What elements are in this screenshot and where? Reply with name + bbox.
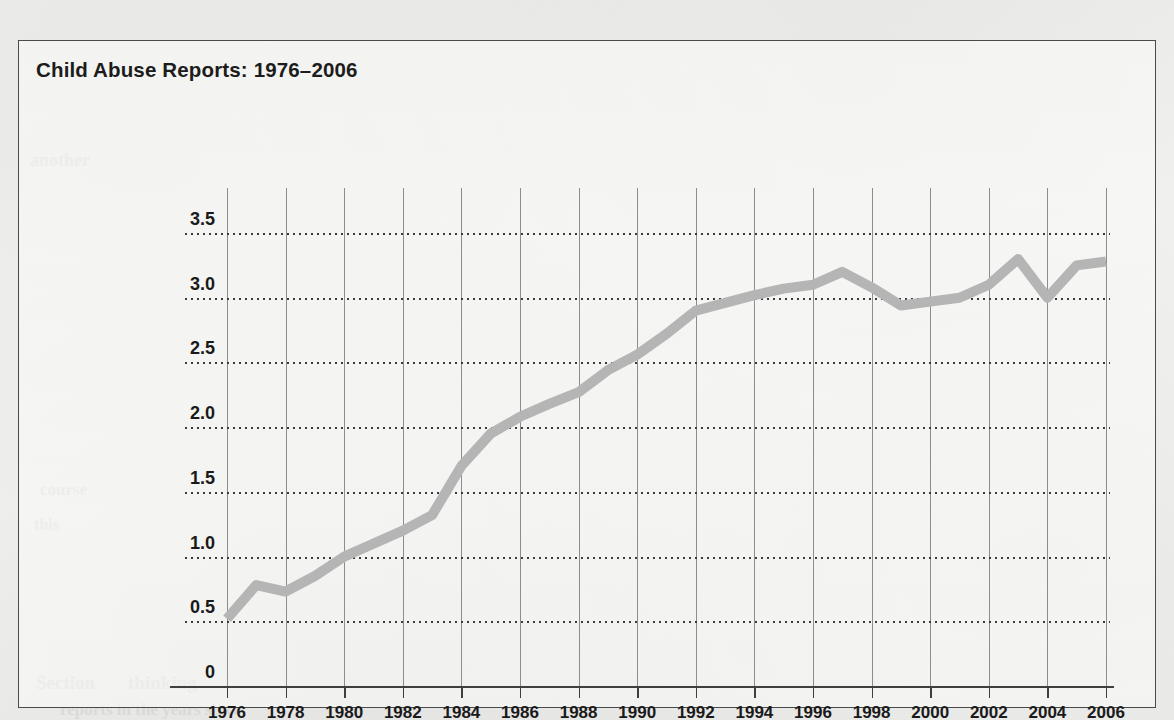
- x-axis-tick: [227, 686, 228, 698]
- y-axis-tick-label: 1.5: [169, 468, 215, 489]
- chart-title: Child Abuse Reports: 1976–2006: [36, 58, 358, 82]
- x-axis-tick: [344, 686, 345, 698]
- x-axis-tick: [1106, 686, 1107, 698]
- x-axis-tick-label: 2002: [959, 703, 1019, 720]
- y-axis-tick-label: 1.0: [169, 533, 215, 554]
- x-axis-tick: [696, 686, 697, 698]
- x-axis-tick: [579, 686, 580, 698]
- x-axis-tick-label: 1982: [373, 703, 433, 720]
- x-axis-tick: [286, 686, 287, 698]
- x-axis-tick-label: 1988: [549, 703, 609, 720]
- x-axis-tick-label: 1980: [314, 703, 374, 720]
- x-axis-tick: [930, 686, 931, 698]
- x-axis-tick: [1047, 686, 1048, 698]
- x-axis-line: [170, 686, 1114, 688]
- x-axis-tick-label: 1992: [666, 703, 726, 720]
- plot-area: [227, 233, 1106, 686]
- x-axis-tick-label: 2000: [900, 703, 960, 720]
- x-axis-tick: [754, 686, 755, 698]
- y-axis-tick-label: 0: [169, 662, 215, 683]
- x-axis-tick-label: 1976: [197, 703, 257, 720]
- y-axis-tick-label: 3.0: [169, 274, 215, 295]
- y-axis-tick-label: 2.0: [169, 403, 215, 424]
- y-axis-tick-label: 2.5: [169, 338, 215, 359]
- x-axis-tick-label: 1978: [256, 703, 316, 720]
- x-axis-tick-label: 1990: [607, 703, 667, 720]
- x-axis-tick: [461, 686, 462, 698]
- x-axis-tick-label: 2006: [1076, 703, 1136, 720]
- x-axis-tick-label: 2004: [1017, 703, 1077, 720]
- data-series-line: [227, 233, 1106, 686]
- x-axis-tick-label: 1996: [783, 703, 843, 720]
- series-polyline: [227, 259, 1106, 619]
- x-axis-tick: [520, 686, 521, 698]
- x-axis-tick: [813, 686, 814, 698]
- x-axis-tick: [989, 686, 990, 698]
- y-axis-tick-label: 3.5: [169, 209, 215, 230]
- x-axis-tick: [637, 686, 638, 698]
- y-axis-tick-label: 0.5: [169, 597, 215, 618]
- x-axis-tick-label: 1998: [842, 703, 902, 720]
- x-axis-tick-label: 1994: [724, 703, 784, 720]
- x-axis-tick: [872, 686, 873, 698]
- x-axis-tick: [403, 686, 404, 698]
- figure-frame: Child Abuse Reports: 1976–2006 Reported …: [18, 40, 1156, 708]
- x-axis-tick-label: 1986: [490, 703, 550, 720]
- x-axis-tick-label: 1984: [431, 703, 491, 720]
